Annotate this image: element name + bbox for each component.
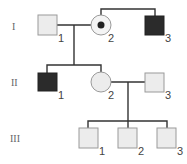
individual-number-III-3: 3: [177, 145, 183, 157]
sibship-line-II: [47, 65, 101, 73]
generation-label-II: II: [11, 77, 18, 88]
pedigree-diagram: I II III 1 2 3 1 2 3 1 2 3: [0, 0, 187, 164]
individual-number-II-3: 3: [165, 89, 171, 101]
carrier-dot-icon: [98, 22, 105, 29]
individual-III-2-male-unaffected: [118, 128, 137, 148]
individual-number-II-1: 1: [58, 89, 64, 101]
individual-number-I-1: 1: [58, 32, 64, 44]
generation-label-III: III: [10, 133, 20, 144]
individual-III-3-male-unaffected: [157, 128, 176, 148]
individual-number-III-1: 1: [99, 145, 105, 157]
individual-II-3-male-unaffected: [145, 73, 164, 92]
individual-I-3-male-affected: [145, 16, 164, 35]
individual-III-1-male-unaffected: [79, 128, 98, 148]
generation-label-I: I: [12, 21, 15, 32]
individual-number-III-2: 2: [138, 145, 144, 157]
sibling-line-I2-I3: [101, 9, 155, 16]
individual-number-I-3: 3: [165, 32, 171, 44]
individual-II-1-male-affected: [38, 73, 57, 91]
individual-I-1-male-unaffected: [38, 15, 57, 35]
individual-number-II-2: 2: [108, 89, 114, 101]
individual-number-I-2: 2: [108, 32, 114, 44]
